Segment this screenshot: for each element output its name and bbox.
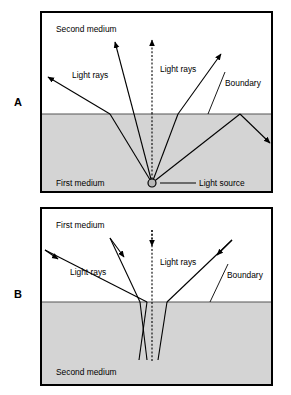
panel-a-light-rays-left-label: Light rays (72, 70, 108, 80)
panel-b: First medium Second medium Light rays Li… (41, 208, 272, 385)
light-refraction-diagram: Second medium First medium Light rays Li… (0, 0, 291, 395)
panel-a: Second medium First medium Light rays Li… (41, 12, 272, 192)
panel-a-first-medium-label: First medium (56, 178, 104, 188)
panel-a-light-rays-right-label: Light rays (160, 64, 196, 74)
light-source-marker (148, 179, 156, 187)
panel-b-second-medium-label: Second medium (56, 367, 117, 377)
panel-b-first-medium-label: First medium (56, 220, 104, 230)
panel-b-light-rays-left-label: Light rays (70, 267, 106, 277)
panel-a-second-medium-label: Second medium (56, 24, 117, 34)
panel-b-boundary-label: Boundary (227, 270, 264, 280)
figure-root: A B (0, 0, 291, 395)
panel-a-light-source-label: Light source (199, 178, 245, 188)
panel-a-boundary-label: Boundary (225, 78, 262, 88)
panel-b-light-rays-right-label: Light rays (160, 257, 196, 267)
